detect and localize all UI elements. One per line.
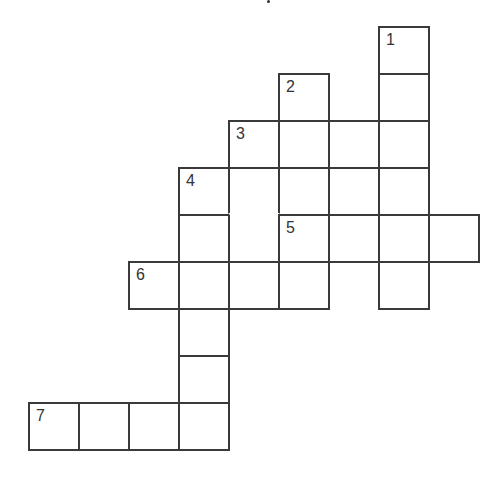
crossword-cell[interactable] [178, 402, 230, 451]
crossword-cell[interactable] [178, 355, 230, 404]
crossword-cell[interactable] [278, 167, 330, 216]
crossword-cell[interactable] [378, 120, 430, 169]
crossword-cell[interactable] [378, 214, 430, 263]
crossword-cell[interactable] [328, 214, 380, 263]
crossword-cell[interactable] [378, 167, 430, 216]
clue-number: 7 [36, 408, 45, 424]
clue-number: 4 [186, 173, 195, 189]
crossword-cell[interactable]: 3 [228, 120, 280, 169]
crossword-cell[interactable] [328, 167, 380, 216]
clue-number: 6 [136, 267, 145, 283]
clue-number: 2 [286, 79, 295, 95]
crossword-grid: 1234567 [0, 0, 504, 477]
crossword-cell[interactable] [178, 214, 230, 263]
crossword-cell[interactable] [228, 261, 280, 310]
crossword-cell[interactable] [178, 261, 230, 310]
crossword-cell[interactable] [78, 402, 130, 451]
crossword-cell[interactable]: 7 [28, 402, 80, 451]
crossword-cell[interactable]: 6 [128, 261, 180, 310]
clue-number: 5 [286, 220, 295, 236]
crossword-cell[interactable] [278, 120, 330, 169]
stray-mark [267, 0, 270, 3]
crossword-cell[interactable] [378, 261, 430, 310]
crossword-cell[interactable] [178, 308, 230, 357]
crossword-cell[interactable] [378, 73, 430, 122]
crossword-cell[interactable] [428, 214, 480, 263]
crossword-cell[interactable] [278, 261, 330, 310]
crossword-cell[interactable]: 4 [178, 167, 230, 216]
crossword-cell[interactable] [228, 167, 280, 216]
clue-number: 1 [386, 32, 395, 48]
crossword-cell[interactable]: 2 [278, 73, 330, 122]
crossword-cell[interactable]: 1 [378, 26, 430, 75]
crossword-cell[interactable]: 5 [278, 214, 330, 263]
crossword-cell[interactable] [128, 402, 180, 451]
crossword-cell[interactable] [228, 213, 280, 263]
crossword-cell[interactable] [328, 120, 380, 169]
clue-number: 3 [236, 126, 245, 142]
